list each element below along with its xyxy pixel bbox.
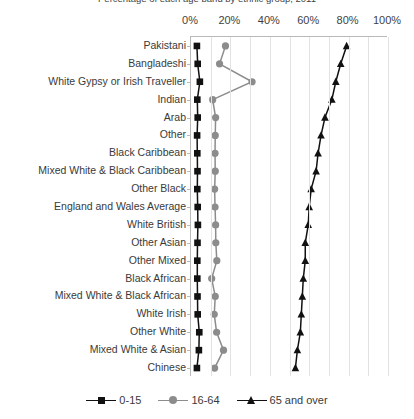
circle-marker <box>222 42 229 49</box>
square-marker <box>195 222 202 229</box>
axis-tick <box>187 279 191 280</box>
axis-tick <box>187 171 191 172</box>
axis-tick <box>187 207 191 208</box>
square-marker <box>194 61 201 68</box>
axis-tick <box>187 368 191 369</box>
plot-area <box>190 36 387 376</box>
square-marker <box>194 168 201 175</box>
circle-marker <box>212 293 219 300</box>
category-label: Mixed White & Asian <box>0 344 186 355</box>
series-16-64 <box>208 42 256 371</box>
axis-tick <box>187 261 191 262</box>
triangle-marker <box>301 256 309 263</box>
category-label: England and Wales Average <box>0 201 186 212</box>
category-label: Other Asian <box>0 236 186 247</box>
square-marker <box>194 293 201 300</box>
axis-tick <box>187 82 191 83</box>
axis-tick <box>187 243 191 244</box>
x-tick-label: 60% <box>297 14 319 26</box>
triangle-marker <box>312 167 320 174</box>
triangle-marker <box>321 113 329 120</box>
gridline <box>250 37 251 376</box>
category-label: Bangladeshi <box>0 57 186 68</box>
gridline <box>211 37 212 376</box>
square-marker <box>194 114 201 121</box>
axis-tick <box>187 314 191 315</box>
square-marker <box>196 347 203 354</box>
x-tick-label: 100% <box>373 14 401 26</box>
square-marker <box>194 257 201 264</box>
category-label: White Irish <box>0 308 186 319</box>
circle-marker <box>212 132 219 139</box>
axis-tick <box>187 153 191 154</box>
triangle-marker <box>299 274 307 281</box>
circle-marker <box>213 329 220 336</box>
chart-title: Percentage of each age band by ethnic gr… <box>0 0 414 5</box>
gridline <box>388 37 389 376</box>
legend-item[interactable]: 16-64 <box>158 394 219 406</box>
x-tick-label: 0% <box>182 14 198 26</box>
square-marker <box>86 394 116 406</box>
square-marker <box>194 311 201 318</box>
series-65-and-over <box>292 42 351 372</box>
triangle-marker <box>299 292 307 299</box>
square-marker <box>194 150 201 157</box>
triangle-marker <box>298 310 306 317</box>
circle-marker <box>212 168 219 175</box>
axis-tick <box>187 350 191 351</box>
square-marker <box>197 78 204 85</box>
gridline <box>270 37 271 376</box>
category-label: Other Mixed <box>0 254 186 265</box>
gridline <box>230 37 231 376</box>
gridline <box>309 37 310 376</box>
triangle-marker <box>237 394 267 406</box>
triangle-marker <box>317 131 325 138</box>
square-marker <box>194 239 201 246</box>
legend-item[interactable]: 65 and over <box>237 394 328 406</box>
category-label: Black Caribbean <box>0 147 186 158</box>
axis-tick <box>187 100 191 101</box>
gridline <box>290 37 291 376</box>
category-label: Indian <box>0 93 186 104</box>
category-label: Mixed White & Black African <box>0 290 186 301</box>
gridline <box>329 37 330 376</box>
chart-legend: 0-1516-6465 and over <box>0 390 414 410</box>
category-label: White Gypsy or Irish Traveller <box>0 75 186 86</box>
legend-label: 65 and over <box>270 394 328 406</box>
category-label: Mixed White & Black Caribbean <box>0 165 186 176</box>
axis-tick <box>187 332 191 333</box>
square-marker <box>194 204 201 211</box>
category-label: Arab <box>0 111 186 122</box>
gridline <box>349 37 350 376</box>
circle-marker <box>158 394 188 406</box>
circle-marker <box>212 114 219 121</box>
circle-marker <box>216 60 223 67</box>
circle-marker <box>211 311 218 318</box>
circle-marker <box>220 347 227 354</box>
triangle-marker <box>314 149 322 156</box>
circle-marker <box>213 257 220 264</box>
category-label: Chinese <box>0 362 186 373</box>
x-axis-tick-labels: 0%20%40%60%80%100% <box>0 14 414 28</box>
circle-marker <box>212 239 219 246</box>
gridline <box>368 37 369 376</box>
square-marker <box>194 275 201 282</box>
category-label: Pakistani <box>0 39 186 50</box>
square-marker <box>194 365 201 372</box>
x-tick-label: 80% <box>337 14 359 26</box>
square-marker <box>196 329 203 336</box>
category-label: White British <box>0 218 186 229</box>
legend-item[interactable]: 0-15 <box>86 394 141 406</box>
square-marker <box>194 132 201 139</box>
axis-tick <box>187 189 191 190</box>
x-tick-label: 40% <box>258 14 280 26</box>
legend-label: 16-64 <box>191 394 219 406</box>
x-tick-label: 20% <box>218 14 240 26</box>
circle-marker <box>211 150 218 157</box>
series-0-15 <box>194 43 204 372</box>
axis-tick <box>187 225 191 226</box>
legend-label: 0-15 <box>119 394 141 406</box>
circle-marker <box>211 186 218 193</box>
category-label: Other Black <box>0 183 186 194</box>
triangle-marker <box>337 60 345 67</box>
